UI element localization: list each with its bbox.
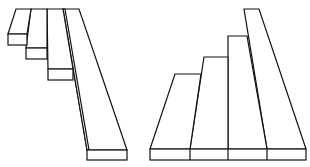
left-plank-1	[8, 9, 31, 45]
right-figure	[150, 9, 306, 160]
left-figure	[8, 9, 127, 160]
left-plank-4	[63, 9, 127, 160]
diagram-canvas	[0, 0, 310, 167]
planks-illustration	[0, 0, 310, 167]
right-base	[150, 149, 306, 160]
